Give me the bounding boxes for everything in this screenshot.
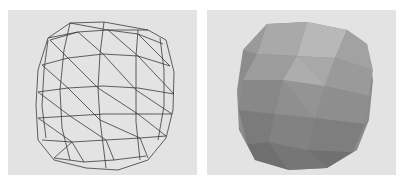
shaded-mesh-image [207,10,396,175]
wireframe-mesh-image [8,10,197,175]
shaded-panel [207,10,396,175]
wireframe-panel [8,10,197,175]
